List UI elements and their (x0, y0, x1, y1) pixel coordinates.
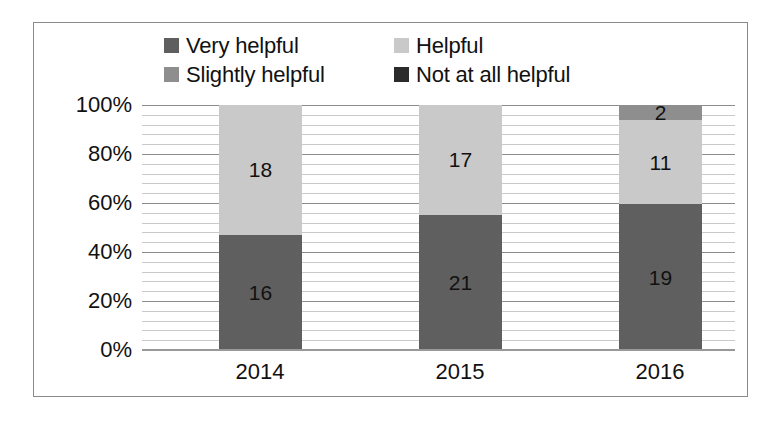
y-tick-20: 20% (88, 288, 132, 314)
x-axis: 2014 2015 2016 (142, 359, 735, 393)
x-axis-line (142, 349, 735, 351)
bar-segment-2014-helpful[interactable]: 18 (219, 105, 302, 235)
y-tick-60: 60% (88, 190, 132, 216)
bar-value-2016-very-helpful: 19 (649, 267, 672, 288)
chart-frame: Very helpful Helpful Slightly helpful No… (33, 22, 748, 397)
y-tick-80: 80% (88, 141, 132, 167)
bar-group-2014[interactable]: 16 18 (219, 105, 302, 350)
bar-stack-2014: 16 18 (219, 105, 302, 350)
y-tick-40: 40% (88, 239, 132, 265)
bar-group-2015[interactable]: 21 17 (419, 105, 502, 350)
bar-segment-2016-helpful[interactable]: 11 (619, 120, 702, 204)
bar-stack-2016: 19 11 2 (619, 105, 702, 350)
bar-value-2014-very-helpful: 16 (249, 282, 272, 303)
bar-segment-2015-helpful[interactable]: 17 (419, 105, 502, 215)
x-tick-2016: 2016 (600, 359, 720, 385)
x-tick-2014: 2014 (200, 359, 320, 385)
bar-value-2015-helpful: 17 (449, 149, 472, 170)
bar-segment-2016-slightly-helpful[interactable]: 2 (619, 105, 702, 120)
bar-stack-2015: 21 17 (419, 105, 502, 350)
plot-area: 16 18 21 17 (142, 105, 735, 350)
y-tick-100: 100% (76, 92, 132, 118)
y-tick-0: 0% (100, 337, 132, 363)
bar-segment-2015-very-helpful[interactable]: 21 (419, 215, 502, 350)
bar-segment-2016-very-helpful[interactable]: 19 (619, 204, 702, 350)
bar-value-2014-helpful: 18 (249, 159, 272, 180)
bar-segment-2014-very-helpful[interactable]: 16 (219, 235, 302, 350)
y-axis: 100% 80% 60% 40% 20% 0% (34, 105, 138, 350)
x-tick-2015: 2015 (400, 359, 520, 385)
bar-group-2016[interactable]: 19 11 2 (619, 105, 702, 350)
plot-wrapper: 100% 80% 60% 40% 20% 0% 16 18 (34, 23, 747, 396)
bar-value-2016-helpful: 11 (650, 152, 672, 173)
bar-value-2015-very-helpful: 21 (449, 272, 472, 293)
